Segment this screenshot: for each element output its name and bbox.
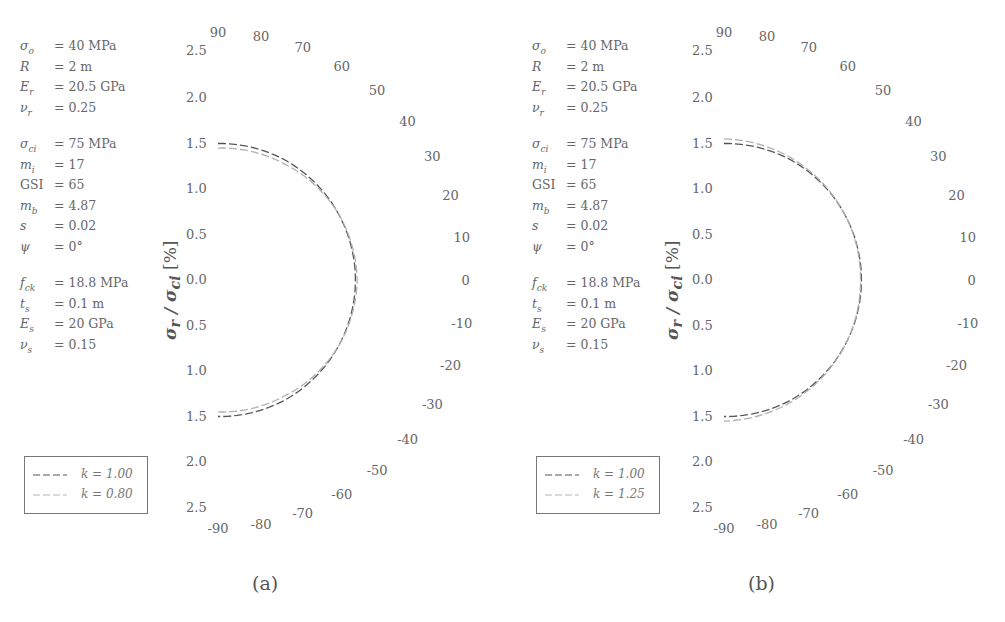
angle-tick-label: -70 xyxy=(798,506,819,521)
angle-tick-label: 10 xyxy=(959,230,976,245)
series-curve xyxy=(218,148,357,412)
legend-label: k = 1.00 xyxy=(81,467,133,481)
angle-tick-label: -30 xyxy=(928,397,949,412)
angle-tick-label: 70 xyxy=(800,40,817,55)
angle-tick-label: -20 xyxy=(440,358,461,373)
angle-tick-label: 50 xyxy=(875,83,892,98)
radial-tick-label: 1.0 xyxy=(692,363,713,378)
angle-tick-label: -80 xyxy=(757,517,778,532)
angle-tick-label: 90 xyxy=(210,25,227,40)
radial-tick-label: 1.0 xyxy=(186,181,207,196)
angle-tick-label: 10 xyxy=(453,230,470,245)
radial-tick-label: 2.5 xyxy=(692,500,713,515)
angle-tick-label: 20 xyxy=(948,188,965,203)
radial-tick-label: 2.0 xyxy=(692,454,713,469)
angle-tick-label: -40 xyxy=(903,432,924,447)
radial-tick-label: 0.5 xyxy=(692,227,713,242)
angle-tick-label: -80 xyxy=(251,517,272,532)
angle-tick-label: -50 xyxy=(367,463,388,478)
radial-tick-label: 0.5 xyxy=(692,318,713,333)
angle-tick-label: -20 xyxy=(946,358,967,373)
angle-tick-label: 60 xyxy=(839,59,856,74)
dashed-line-light-icon xyxy=(33,493,67,497)
angle-tick-label: -30 xyxy=(422,397,443,412)
angle-tick-label: 30 xyxy=(930,149,947,164)
series-curve xyxy=(724,144,861,417)
series-curve xyxy=(218,144,355,417)
radial-tick-label: 2.5 xyxy=(186,43,207,58)
angle-tick-label: -50 xyxy=(873,463,894,478)
legend: k = 1.00 k = 0.80 xyxy=(24,456,148,514)
angle-tick-label: 0 xyxy=(461,273,469,288)
dashed-line-light-icon xyxy=(545,493,579,497)
legend-item-k100: k = 1.00 xyxy=(545,466,645,482)
legend: k = 1.00 k = 1.25 xyxy=(536,456,660,514)
series-curve xyxy=(724,139,861,421)
panel-caption: (b) xyxy=(748,572,775,594)
legend-label: k = 1.00 xyxy=(593,467,645,481)
angle-tick-label: 0 xyxy=(967,273,975,288)
angle-tick-label: -90 xyxy=(714,521,735,536)
angle-tick-label: 80 xyxy=(759,29,776,44)
angle-tick-label: -10 xyxy=(957,316,978,331)
legend-label: k = 1.25 xyxy=(593,487,645,501)
dashed-line-dark-icon xyxy=(33,473,67,477)
angle-tick-label: 60 xyxy=(333,59,350,74)
angle-tick-label: 70 xyxy=(294,40,311,55)
chart-panel-b: σo= 40 MPaR= 2 mEr= 20.5 GPaνr= 0.25σci=… xyxy=(512,0,1005,622)
legend-item-k100: k = 1.00 xyxy=(33,466,133,482)
radial-tick-label: 0.0 xyxy=(186,272,207,287)
legend-label: k = 0.80 xyxy=(81,487,133,501)
radial-tick-label: 0.5 xyxy=(186,318,207,333)
radial-tick-label: 1.5 xyxy=(692,409,713,424)
radial-tick-label: 2.0 xyxy=(186,454,207,469)
polar-plot-b: 2.52.01.51.00.50.00.51.01.52.02.59080706… xyxy=(512,0,1005,622)
radial-tick-label: 0.5 xyxy=(186,227,207,242)
angle-tick-label: 50 xyxy=(369,83,386,98)
angle-tick-label: -90 xyxy=(208,521,229,536)
legend-item-k125: k = 1.25 xyxy=(545,486,645,502)
radial-tick-label: 1.0 xyxy=(186,363,207,378)
angle-tick-label: -40 xyxy=(397,432,418,447)
radial-tick-label: 1.0 xyxy=(692,181,713,196)
radial-tick-label: 2.5 xyxy=(692,43,713,58)
angle-tick-label: 40 xyxy=(399,114,416,129)
angle-tick-label: 30 xyxy=(424,149,441,164)
radial-tick-label: 2.5 xyxy=(186,500,207,515)
angle-tick-label: -60 xyxy=(837,487,858,502)
angle-tick-label: -60 xyxy=(331,487,352,502)
radial-tick-label: 0.0 xyxy=(692,272,713,287)
radial-tick-label: 1.5 xyxy=(186,136,207,151)
polar-plot-a: 2.52.01.51.00.50.00.51.01.52.02.59080706… xyxy=(0,0,500,622)
angle-tick-label: 20 xyxy=(442,188,459,203)
angle-tick-label: 80 xyxy=(253,29,270,44)
radial-tick-label: 2.0 xyxy=(692,90,713,105)
chart-panel-a: σo= 40 MPaR= 2 mEr= 20.5 GPaνr= 0.25σci=… xyxy=(0,0,500,622)
angle-tick-label: -10 xyxy=(451,316,472,331)
angle-tick-label: 40 xyxy=(905,114,922,129)
angle-tick-label: 90 xyxy=(716,25,733,40)
radial-tick-label: 1.5 xyxy=(692,136,713,151)
radial-tick-label: 2.0 xyxy=(186,90,207,105)
panel-caption: (a) xyxy=(252,572,278,594)
legend-item-k080: k = 0.80 xyxy=(33,486,133,502)
dashed-line-dark-icon xyxy=(545,473,579,477)
radial-tick-label: 1.5 xyxy=(186,409,207,424)
angle-tick-label: -70 xyxy=(292,506,313,521)
